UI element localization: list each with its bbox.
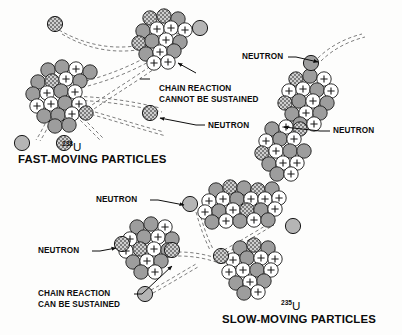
figure-canvas: CHAIN REACTION CANNOT BE SUSTAINED NEUTR…	[0, 0, 402, 335]
label-neutron-mid-right: NEUTRON	[333, 126, 374, 137]
label-neutron-slow-left: NEUTRON	[38, 246, 79, 257]
trajectory-group-slow-topright	[318, 34, 365, 61]
label-chain-reaction-can: CHAIN REACTION CAN BE SUSTAINED	[38, 289, 120, 310]
isotope-label-u235: 235U	[281, 299, 300, 312]
caption-fast-moving-particles: FAST-MOVING PARTICLES	[18, 153, 167, 165]
label-neutron-top-right: NEUTRON	[242, 52, 283, 63]
label-neutron-fast-right: NEUTRON	[208, 121, 249, 132]
nucleus-u238-upper	[132, 9, 192, 70]
label-neutron-slow-top: NEUTRON	[96, 195, 137, 206]
nucleus-u235-bottomright	[222, 238, 282, 300]
label-chain-reaction-cannot: CHAIN REACTION CANNOT BE SUSTAINED	[159, 84, 259, 105]
caption-slow-moving-particles: SLOW-MOVING PARTICLES	[222, 313, 376, 325]
isotope-label-u238: 238U	[62, 140, 81, 153]
nucleus-u235-splitting	[198, 180, 286, 229]
fission-diagram-svg	[0, 0, 402, 335]
